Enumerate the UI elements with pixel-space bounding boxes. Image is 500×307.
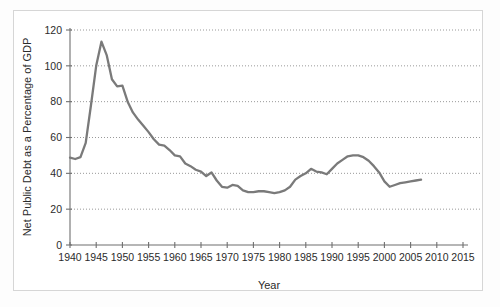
y-tick-label: 0	[56, 239, 62, 251]
line-chart-plot: 1940194519501955196019651970197519801985…	[0, 0, 500, 307]
x-tick-label: 1965	[189, 251, 213, 263]
data-series-line	[70, 42, 421, 193]
x-tick-label: 2015	[451, 251, 475, 263]
x-tick-label: 1990	[320, 251, 344, 263]
x-tick-label: 1970	[216, 251, 240, 263]
y-tick-label: 20	[50, 203, 62, 215]
y-axis-title: Net Public Debt as a Percentage of GDP	[21, 38, 33, 237]
y-tick-label: 120	[44, 24, 62, 36]
x-tick-labels-group: 1940194519501955196019651970197519801985…	[58, 251, 475, 263]
x-tick-label: 1985	[294, 251, 318, 263]
x-tick-label: 1950	[111, 251, 135, 263]
x-tick-label: 1960	[163, 251, 187, 263]
y-tick-label: 100	[44, 60, 62, 72]
y-tickmarks-group	[66, 30, 72, 245]
x-tick-label: 2000	[373, 251, 397, 263]
x-tick-label: 2005	[399, 251, 423, 263]
x-axis-title: Year	[258, 279, 281, 291]
x-tick-label: 1945	[85, 251, 109, 263]
chart-figure: 1940194519501955196019651970197519801985…	[0, 0, 500, 307]
gridlines-group	[71, 30, 481, 209]
x-tick-label: 1940	[58, 251, 82, 263]
y-tick-labels-group: 020406080100120	[44, 24, 62, 251]
x-tick-label: 1955	[137, 251, 161, 263]
x-tick-label: 1975	[242, 251, 266, 263]
x-tick-label: 1980	[268, 251, 292, 263]
y-tick-label: 80	[50, 95, 62, 107]
x-tick-label: 2010	[425, 251, 449, 263]
y-tick-label: 60	[50, 131, 62, 143]
x-tick-label: 1995	[347, 251, 371, 263]
y-tick-label: 40	[50, 167, 62, 179]
